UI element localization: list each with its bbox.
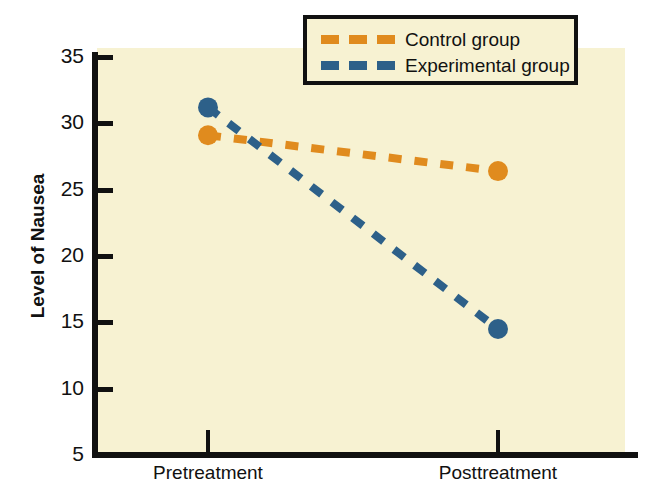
y-tick-label: 30 <box>14 110 84 134</box>
plot-area-background <box>97 48 625 452</box>
chart-figure: 3530252015105 PretreatmentPosttreatment … <box>0 0 652 503</box>
x-tick-label: Posttreatment <box>398 462 598 484</box>
legend-box: Control group Experimental group <box>303 15 578 85</box>
x-tick-mark <box>206 430 210 453</box>
legend-swatch-control <box>321 35 395 44</box>
y-tick-mark <box>98 121 113 126</box>
y-tick-mark <box>98 188 113 193</box>
x-tick-mark <box>496 430 500 453</box>
x-tick-label: Pretreatment <box>108 462 308 484</box>
y-tick-mark <box>98 55 113 60</box>
y-tick-label: 35 <box>14 44 84 68</box>
legend-item-control: Control group <box>321 26 520 52</box>
y-tick-label: 10 <box>14 376 84 400</box>
y-tick-mark <box>98 320 113 325</box>
x-axis-line <box>92 452 638 458</box>
y-tick-mark <box>98 453 113 458</box>
y-tick-label: 25 <box>14 177 84 201</box>
legend-item-experimental: Experimental group <box>321 52 570 78</box>
y-axis-title: Level of Nausea <box>27 116 49 376</box>
y-tick-label: 15 <box>14 309 84 333</box>
legend-swatch-experimental <box>321 61 395 70</box>
y-tick-mark <box>98 254 113 259</box>
legend-label-experimental: Experimental group <box>405 56 570 75</box>
legend-label-control: Control group <box>405 30 520 49</box>
y-tick-label: 20 <box>14 243 84 267</box>
y-tick-label: 5 <box>14 442 84 466</box>
y-tick-mark <box>98 387 113 392</box>
